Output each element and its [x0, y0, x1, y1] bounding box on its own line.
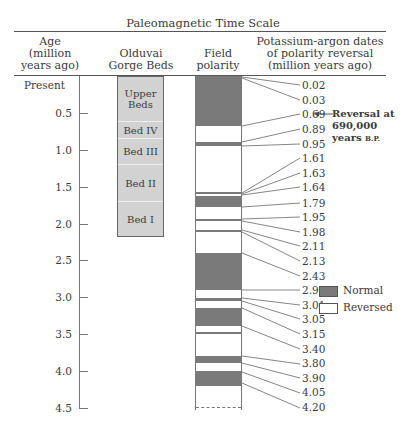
- polarity-band-normal: [196, 230, 241, 232]
- polarity-band-normal: [196, 356, 241, 363]
- reversal-date: 0.03: [302, 94, 325, 106]
- polarity-header: Field polarity: [188, 48, 248, 72]
- tick-label: 4.5: [32, 402, 72, 414]
- legend-reversed-label: Reversed: [343, 301, 393, 313]
- polarity-band-normal: [196, 298, 241, 301]
- legend-normal-label: Normal: [343, 284, 383, 296]
- reversal-date: 0.95: [302, 138, 325, 150]
- connector-lines: [242, 70, 304, 420]
- tick-label: 3.0: [32, 291, 72, 303]
- age-header: Age (million years ago): [14, 36, 86, 72]
- reversal-date: 2.11: [302, 240, 325, 252]
- reversal-date: 1.63: [302, 167, 325, 179]
- tick-label: 1.5: [32, 181, 72, 193]
- reversal-date: 1.98: [302, 226, 325, 238]
- polarity-band-normal: [196, 219, 241, 221]
- chart-title: Paleomagnetic Time Scale: [0, 16, 406, 30]
- bed-ii: Bed II: [118, 165, 163, 202]
- tick-mark: [80, 371, 88, 372]
- reversal-date: 3.15: [302, 328, 325, 340]
- tick-mark: [80, 408, 88, 409]
- polarity-band-normal: [196, 332, 241, 334]
- reversal-date: 0.89: [302, 123, 325, 135]
- tick-mark: [80, 150, 88, 151]
- bed-i: Bed I: [118, 202, 163, 236]
- reversal-date: 3.80: [302, 357, 325, 369]
- tick-label: 0.5: [32, 107, 72, 119]
- reversal-date: 1.64: [302, 181, 325, 193]
- arrow-left-icon: [314, 110, 334, 118]
- polarity-band-normal: [196, 371, 241, 386]
- tick-label: 2.0: [32, 218, 72, 230]
- reversal-annotation: Reversal at 690,000 years B.P.: [332, 108, 395, 145]
- polarity-header-line: polarity: [188, 60, 248, 72]
- age-header-line: years ago): [14, 60, 86, 72]
- tick-label: 2.5: [32, 254, 72, 266]
- tick-label-present: Present: [24, 79, 64, 91]
- polarity-band-normal: [196, 308, 241, 326]
- legend-reversed-swatch: [319, 303, 338, 314]
- polarity-dashed-boundary: [196, 407, 241, 408]
- tick-label: 1.0: [32, 144, 72, 156]
- reversal-date: 1.79: [302, 197, 325, 209]
- tick-mark: [80, 334, 88, 335]
- tick-label: 4.0: [32, 365, 72, 377]
- dates-header: Potassium-argon dates of polarity revers…: [250, 36, 390, 72]
- header-top-rule: [14, 31, 386, 32]
- tick-mark: [80, 224, 88, 225]
- field-polarity-column: [195, 76, 242, 410]
- reversal-date: 0.02: [302, 79, 325, 91]
- reversal-date: 1.61: [302, 152, 325, 164]
- polarity-band-normal: [196, 142, 241, 146]
- reversal-date: 3.40: [302, 343, 325, 355]
- polarity-band-normal: [196, 196, 241, 207]
- tick-mark: [80, 113, 88, 114]
- polarity-band-normal: [196, 78, 241, 126]
- olduvai-beds-column: UpperBeds Bed IV Bed III Bed II Bed I: [117, 76, 164, 237]
- legend-normal-swatch: [319, 286, 338, 297]
- tick-mark: [80, 260, 88, 261]
- beds-header: Olduvai Gorge Beds: [100, 48, 182, 72]
- reversal-date: 4.05: [302, 386, 325, 398]
- tick-mark: [80, 297, 88, 298]
- reversal-date: 2.13: [302, 255, 325, 267]
- reversal-date: 4.20: [302, 401, 325, 413]
- reversal-date: 3.90: [302, 372, 325, 384]
- age-axis-line: [79, 76, 80, 409]
- bed-iii: Bed III: [118, 139, 163, 165]
- polarity-band-normal: [196, 192, 241, 194]
- reversal-date: 3.05: [302, 313, 325, 325]
- beds-header-line: Gorge Beds: [100, 60, 182, 72]
- tick-mark: [80, 187, 88, 188]
- bed-upper: UpperBeds: [118, 77, 163, 122]
- polarity-band-normal: [196, 253, 241, 290]
- tick-label: 3.5: [32, 328, 72, 340]
- annotation-line: Reversal at: [332, 108, 395, 120]
- reversal-date: 2.43: [302, 270, 325, 282]
- reversal-date: 1.95: [302, 211, 325, 223]
- annotation-line: years B.P.: [332, 132, 395, 145]
- annotation-line: 690,000: [332, 120, 395, 132]
- bed-iv: Bed IV: [118, 122, 163, 139]
